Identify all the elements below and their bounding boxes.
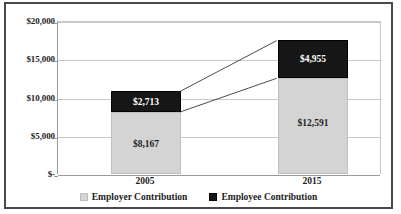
bar-segment-employee-2015[interactable]: $4,955 <box>278 40 348 78</box>
bar-value-label: $8,167 <box>112 139 180 149</box>
y-axis-tick-label: $- <box>9 169 55 179</box>
chart-legend: Employer Contribution Employee Contribut… <box>6 192 391 202</box>
gridline-20000 <box>58 22 380 23</box>
legend-swatch-icon-employee <box>209 193 217 201</box>
y-axis-tick-label: $20,000 <box>9 16 55 26</box>
x-axis-tick-label-2015: 2015 <box>257 176 367 186</box>
bar-value-label: $4,955 <box>279 54 347 64</box>
legend-label-employer: Employer Contribution <box>92 192 188 202</box>
bar-segment-employer-2005[interactable]: $8,167 <box>111 112 181 174</box>
legend-item-employee[interactable]: Employee Contribution <box>209 192 317 202</box>
legend-item-employer[interactable]: Employer Contribution <box>80 192 188 202</box>
x-axis-tick-label-2005: 2005 <box>90 176 200 186</box>
x-axis: 2005 2015 <box>57 176 381 190</box>
bar-segment-employee-2005[interactable]: $2,713 <box>111 91 181 112</box>
y-axis-tick-label: $5,000 <box>9 131 55 141</box>
y-axis-tick-label: $10,000 <box>9 93 55 103</box>
legend-swatch-icon-employer <box>80 193 88 201</box>
bar-value-label: $2,713 <box>112 97 180 107</box>
bar-segment-employer-2015[interactable]: $12,591 <box>278 78 348 174</box>
chart-frame: $20,000 $15,000 $10,000 $5,000 $- $8,167… <box>4 2 393 209</box>
bar-stack-2005[interactable]: $8,167 $2,713 <box>111 91 181 174</box>
y-axis-tick-label: $15,000 <box>9 54 55 64</box>
bar-value-label: $12,591 <box>279 118 347 128</box>
legend-label-employee: Employee Contribution <box>221 192 317 202</box>
bar-stack-2015[interactable]: $12,591 $4,955 <box>278 40 348 174</box>
y-axis: $20,000 $15,000 $10,000 $5,000 $- <box>6 21 55 174</box>
plot-area: $8,167 $2,713 $12,591 $4,955 <box>57 21 381 174</box>
